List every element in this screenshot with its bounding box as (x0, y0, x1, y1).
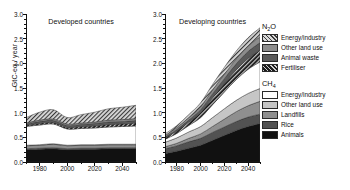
x-tick-mark (94, 162, 95, 166)
x-tick-mark (176, 162, 177, 166)
y-minor-tick (24, 43, 26, 44)
legend-item[interactable]: Landfills (262, 110, 348, 119)
y-tick-label: 1.5 (14, 85, 23, 92)
y-minor-tick (163, 107, 165, 108)
x-minor-tick (236, 162, 237, 164)
x-tick-mark (67, 162, 68, 166)
y-minor-tick (24, 83, 26, 84)
panel-developed-countries: Developed countries 0.00.51.01.52.02.53.… (26, 14, 136, 162)
y-minor-tick (163, 68, 165, 69)
y-minor-tick (163, 142, 165, 143)
legend-swatch (262, 131, 278, 139)
y-minor-tick (24, 127, 26, 128)
legend-item[interactable]: Energy/industry (262, 33, 348, 42)
x-minor-tick (81, 162, 82, 164)
y-minor-tick (163, 98, 165, 99)
legend-swatch (262, 111, 278, 119)
y-minor-tick (163, 127, 165, 128)
legend-item[interactable]: Energy/industry (262, 90, 348, 99)
y-minor-tick (163, 28, 165, 29)
legend-swatch (262, 101, 278, 109)
x-minor-tick (136, 162, 137, 164)
y-minor-tick (163, 19, 165, 20)
legend-group-ch4: CH4Energy/industryOther land useLandfill… (262, 79, 348, 139)
y-minor-tick (24, 19, 26, 20)
legend-group-n2o: N2OEnergy/industryOther land useAnimal w… (262, 22, 348, 72)
y-minor-tick (24, 24, 26, 25)
y-tick-mark (162, 112, 166, 113)
y-minor-tick (24, 93, 26, 94)
y-tick-mark (162, 38, 166, 39)
y-tick-mark (162, 63, 166, 64)
legend-label: Landfills (281, 111, 304, 118)
y-minor-tick (24, 48, 26, 49)
x-tick-mark (39, 162, 40, 166)
y-minor-tick (163, 147, 165, 148)
x-tick-label: 2000 (60, 165, 74, 172)
y-minor-tick (24, 107, 26, 108)
y-minor-tick (24, 78, 26, 79)
y-minor-tick (163, 132, 165, 133)
y-minor-tick (163, 24, 165, 25)
y-minor-tick (24, 122, 26, 123)
x-minor-tick (26, 162, 27, 164)
legend-item[interactable]: Other land use (262, 100, 348, 109)
y-minor-tick (24, 28, 26, 29)
y-minor-tick (163, 157, 165, 158)
y-minor-tick (24, 157, 26, 158)
legend-item[interactable]: Fertiliser (262, 63, 348, 72)
chart-figure: GtC-eq / year Developed countries 0.00.5… (0, 0, 350, 190)
y-minor-tick (163, 122, 165, 123)
y-minor-tick (24, 147, 26, 148)
x-tick-label: 1980 (170, 165, 184, 172)
legend-label: Animals (281, 131, 304, 138)
y-tick-mark (162, 137, 166, 138)
y-minor-tick (24, 68, 26, 69)
x-minor-tick (260, 162, 261, 164)
y-tick-label: 3.0 (14, 11, 23, 18)
y-minor-tick (24, 102, 26, 103)
y-tick-label: 2.0 (153, 60, 162, 67)
legend-item[interactable]: Other land use (262, 43, 348, 52)
legend-item[interactable]: Rice (262, 120, 348, 129)
y-minor-tick (163, 93, 165, 94)
legend-swatch (262, 121, 278, 129)
y-tick-label: 2.5 (14, 35, 23, 42)
y-minor-tick (163, 43, 165, 44)
y-minor-tick (163, 73, 165, 74)
y-tick-label: 0.0 (14, 159, 23, 166)
legend-item[interactable]: Animals (262, 130, 348, 139)
legend-label: Rice (281, 121, 294, 128)
y-minor-tick (24, 132, 26, 133)
y-tick-label: 0.5 (14, 134, 23, 141)
y-minor-tick (163, 48, 165, 49)
y-minor-tick (163, 152, 165, 153)
y-tick-label: 2.0 (14, 60, 23, 67)
y-tick-label: 1.0 (153, 109, 162, 116)
x-tick-label: 2040 (241, 165, 255, 172)
panel-developing-countries: Developing countries 0.00.51.01.52.02.53… (165, 14, 260, 162)
x-tick-label: 1980 (33, 165, 47, 172)
legend-swatch (262, 64, 278, 72)
y-minor-tick (24, 53, 26, 54)
y-tick-label: 1.5 (153, 85, 162, 92)
area-band (26, 149, 136, 162)
y-tick-label: 3.0 (153, 11, 162, 18)
plot-area-developed (26, 14, 136, 162)
y-tick-mark (23, 38, 27, 39)
x-minor-tick (188, 162, 189, 164)
x-minor-tick (53, 162, 54, 164)
y-minor-tick (24, 58, 26, 59)
y-tick-label: 2.5 (153, 35, 162, 42)
x-tick-label: 2020 (88, 165, 102, 172)
legend-swatch (262, 44, 278, 52)
legend-swatch (262, 34, 278, 42)
y-minor-tick (163, 117, 165, 118)
x-minor-tick (212, 162, 213, 164)
legend-label: Animal waste (281, 54, 319, 61)
x-minor-tick (108, 162, 109, 164)
y-minor-tick (163, 33, 165, 34)
plot-area-developing (165, 14, 260, 162)
legend-title-n2o: N2O (262, 22, 348, 31)
legend-item[interactable]: Animal waste (262, 53, 348, 62)
